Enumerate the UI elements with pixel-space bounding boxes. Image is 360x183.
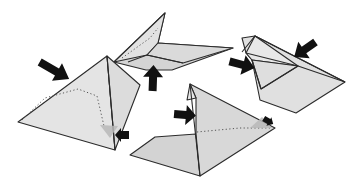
arrow-left-push-icon <box>35 53 74 87</box>
arrow-bottom-left-icon <box>173 104 197 126</box>
figure-right-boat <box>242 36 345 113</box>
figure-top-flat <box>114 13 233 70</box>
diagram-canvas <box>0 0 360 183</box>
origami-diagram: Origami folding steps <box>0 0 360 183</box>
figure-bottom-open <box>130 84 275 176</box>
